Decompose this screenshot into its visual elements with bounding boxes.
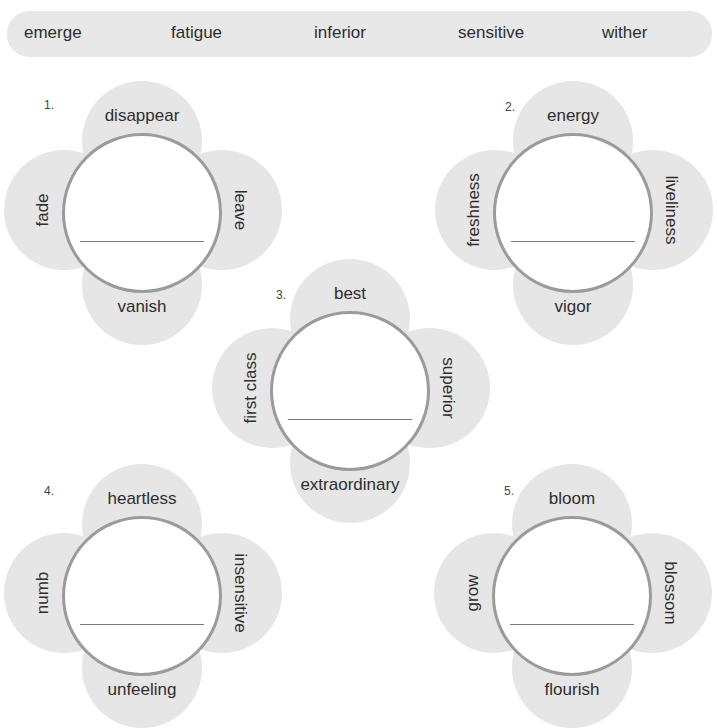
answer-circle [270,311,430,471]
answer-circle [492,516,652,676]
clue-bottom: extraordinary [300,475,399,495]
item-number: 4. [44,484,54,498]
clue-right: liveliness [661,176,681,245]
clue-right: superior [438,357,458,418]
clue-right: insensitive [230,553,250,632]
clue-bottom: vigor [555,297,592,317]
answer-blank[interactable] [510,624,634,625]
word-bank-item: wither [602,23,647,43]
item-number: 3. [276,288,286,302]
clue-bottom: unfeeling [107,680,176,700]
word-bank-item: emerge [24,23,82,43]
clue-left: numb [33,572,53,615]
clue-top: heartless [108,489,177,509]
item-number: 5. [504,484,514,498]
item-number: 2. [505,100,515,114]
word-bank-item: fatigue [171,23,222,43]
clue-top: bloom [549,489,595,509]
word-bank-item: inferior [314,23,366,43]
answer-blank[interactable] [80,624,204,625]
clue-right: blossom [660,561,680,624]
clue-left: first class [241,353,261,424]
answer-blank[interactable] [80,241,204,242]
clue-top: best [334,284,366,304]
word-bank: emerge fatigue inferior sensitive wither [7,11,712,57]
clue-bottom: flourish [545,680,600,700]
answer-circle [493,133,653,293]
answer-blank[interactable] [511,241,635,242]
answer-circle [62,516,222,676]
answer-circle [62,133,222,293]
clue-top: energy [547,106,599,126]
clue-top: disappear [105,106,180,126]
clue-bottom: vanish [117,297,166,317]
clue-left: freshness [464,173,484,247]
word-bank-item: sensitive [458,23,524,43]
clue-left: grow [463,575,483,612]
answer-blank[interactable] [288,419,412,420]
clue-left: fade [33,193,53,226]
item-number: 1. [44,98,54,112]
clue-right: leave [230,190,250,231]
